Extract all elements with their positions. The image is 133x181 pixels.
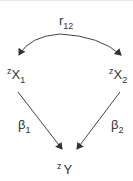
beta1-subscript: 1 xyxy=(25,125,30,135)
correlation-label: r12 xyxy=(59,14,73,27)
beta2-subscript: 2 xyxy=(118,125,123,135)
node-x1-base: X xyxy=(12,67,21,82)
node-y: zY xyxy=(57,163,72,176)
node-x2: zX2 xyxy=(109,68,127,81)
node-y-sup: z xyxy=(57,161,62,171)
node-x2-sub: 2 xyxy=(122,75,127,85)
beta1-label: β1 xyxy=(18,118,31,131)
r-subscript: 12 xyxy=(63,21,73,31)
correlation-arc-right xyxy=(60,34,121,55)
node-x2-base: X xyxy=(114,67,123,82)
node-y-base: Y xyxy=(64,162,73,177)
node-x1: zX1 xyxy=(7,68,25,81)
correlation-arc xyxy=(19,34,60,55)
node-x1-sub: 1 xyxy=(20,75,25,85)
beta2-label: β2 xyxy=(111,118,124,131)
node-x1-sup: z xyxy=(7,66,12,76)
node-x2-sup: z xyxy=(109,66,114,76)
